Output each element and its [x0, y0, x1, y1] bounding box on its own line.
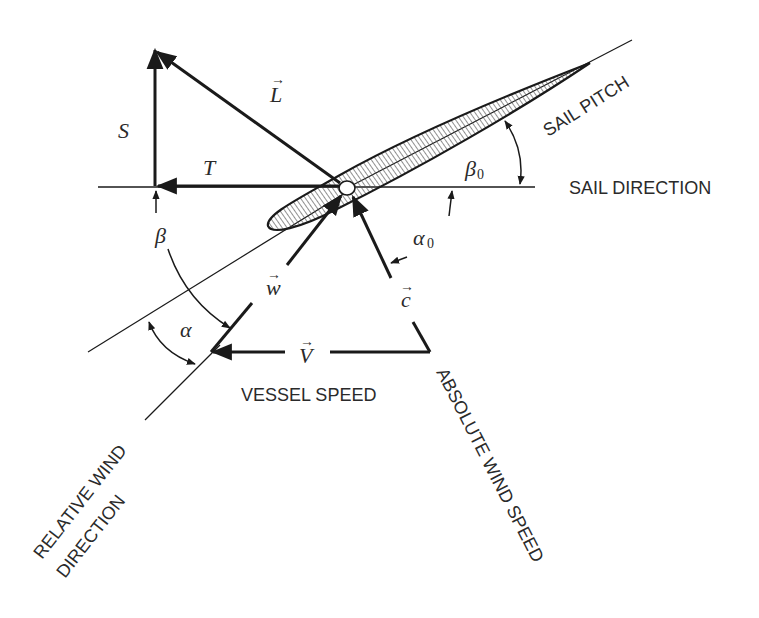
absolute-wind-vector-upper — [353, 197, 391, 278]
beta0-label: β — [464, 156, 476, 181]
alpha0-subscript: 0 — [427, 236, 434, 251]
side-force-label: S — [118, 118, 129, 143]
sail-direction-tick-arrow — [449, 191, 452, 216]
thrust-label: T — [203, 155, 217, 180]
sail-direction-label: SAIL DIRECTION — [569, 178, 711, 198]
lift-vector — [157, 52, 340, 183]
relative-wind-vector-lower — [211, 303, 252, 352]
alpha-label: α — [180, 317, 192, 342]
beta-label: β — [154, 223, 166, 248]
vessel-speed-vector-arrow: → — [300, 334, 314, 349]
lift-vector-arrow: → — [271, 72, 285, 87]
alpha0-arrow — [391, 257, 407, 263]
beta0-subscript: 0 — [477, 167, 484, 182]
alpha0-label: α — [413, 225, 425, 250]
sail-airfoil — [268, 63, 590, 230]
beta-arc — [168, 249, 230, 328]
absolute-wind-vector-lower — [413, 322, 430, 352]
sail-force-diagram: L → S T β β 0 α 0 α w → c → V → SAIL PIT… — [0, 0, 759, 618]
pivot-point — [339, 181, 355, 195]
absolute-wind-vector-arrow: → — [400, 279, 414, 294]
relative-wind-vector-arrow: → — [267, 267, 281, 282]
relative-wind-direction-line-lower — [145, 345, 220, 420]
beta0-arc — [505, 121, 521, 184]
absolute-wind-speed-label: ABSOLUTE WIND SPEED — [432, 365, 547, 566]
vessel-speed-label: VESSEL SPEED — [241, 385, 376, 405]
